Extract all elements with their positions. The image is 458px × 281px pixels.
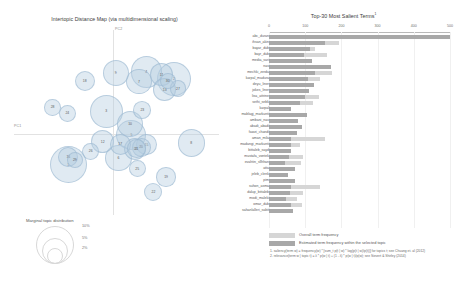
topic-bubble[interactable]: 26 [82, 143, 99, 160]
bar-estimated-frequency [269, 71, 315, 75]
term-label[interactable]: pim [263, 178, 269, 183]
bar-estimated-frequency [269, 161, 285, 165]
term-label[interactable]: deyu_liner [253, 82, 269, 87]
topic-bubble-number: 7 [127, 70, 150, 93]
term-label[interactable]: bayr_dub [254, 52, 269, 57]
topic-bubble-number: 28 [45, 100, 59, 114]
topic-bubble-number: 24 [60, 106, 75, 121]
legend-swatch-estimated [269, 241, 295, 246]
term-label[interactable]: abc_duran [252, 34, 269, 39]
topic-bubble[interactable]: 22 [144, 183, 162, 201]
legend-ring-label: 5% [82, 236, 88, 240]
legend-ring-label: 10% [82, 224, 90, 228]
topic-bubble[interactable]: 24 [59, 105, 76, 122]
bar-estimated-frequency [269, 119, 298, 123]
bar-estimated-frequency [269, 143, 291, 147]
intertopic-map-title: Intertopic Distance Map (via multidimens… [0, 16, 229, 22]
term-label[interactable]: atta [263, 166, 269, 171]
topic-bubble-number: 29 [68, 153, 82, 167]
legend-ring-label: 2% [82, 246, 88, 250]
x-axis-tick-label: 500 [447, 24, 453, 28]
bar-estimated-frequency [269, 101, 300, 105]
term-label[interactable]: sethi_sebk [252, 100, 269, 105]
intertopic-scatter-plot[interactable]: PC2 PC1 12345678910111213141516171819202… [14, 30, 219, 215]
topic-bubble-number: 25 [130, 161, 145, 176]
pyldavis-visualization: Intertopic Distance Map (via multidimens… [0, 0, 458, 281]
legend-label-overall: Overall term frequency [299, 232, 338, 237]
salient-terms-bar-chart[interactable]: 0100200300400500 abc_duranihsan_akinbaya… [229, 24, 458, 228]
topic-bubble[interactable]: 21 [127, 139, 146, 158]
topic-bubble[interactable]: 8 [178, 129, 206, 157]
bar-estimated-frequency [269, 167, 295, 171]
term-label[interactable]: suhon_asma [249, 184, 269, 189]
bar-estimated-frequency [269, 35, 450, 39]
term-label[interactable]: karpal [259, 106, 269, 111]
term-label[interactable]: media_sari [252, 58, 269, 63]
legend-title: Marginal topic distribution [26, 218, 73, 223]
topic-bubble-number: 19 [157, 168, 174, 185]
term-label[interactable]: mechki_zerda [247, 70, 269, 75]
legend-ring [36, 226, 74, 264]
bar-estimated-frequency [269, 125, 302, 129]
term-label[interactable]: modi_maleki [249, 196, 269, 201]
topic-bubble-number: 23 [134, 102, 150, 118]
term-label[interactable]: omar_dub [253, 202, 269, 207]
term-label[interactable]: bayar_dub [252, 46, 269, 51]
topic-bubble[interactable]: 7 [126, 69, 151, 94]
term-label[interactable]: dalup_bittaleb [247, 190, 269, 195]
marginal-topic-distribution-legend: Marginal topic distribution 2%5%10% [20, 218, 140, 276]
term-row[interactable]: sahanlalleri_sabit [229, 208, 458, 214]
term-label[interactable]: lisa_attrine [252, 94, 269, 99]
topic-bubble[interactable]: 18 [75, 71, 95, 91]
term-label[interactable]: evahtin_sllhhan [245, 160, 269, 165]
bar-estimated-frequency [269, 89, 309, 93]
topic-bubble[interactable]: 28 [44, 99, 60, 115]
x-axis-tick-label: 400 [411, 24, 417, 28]
bar-estimated-frequency [269, 179, 295, 183]
term-label[interactable]: mustafa_vontek [244, 154, 269, 159]
term-label[interactable]: jokes_liner [252, 88, 269, 93]
bar-estimated-frequency [269, 59, 312, 63]
term-label[interactable]: sahanlalleri_sabit [242, 208, 269, 213]
topic-bubble-number: 22 [145, 184, 161, 200]
bar-estimated-frequency [269, 113, 307, 117]
term-label[interactable]: ambani_nav [250, 118, 269, 123]
topic-bubble[interactable]: 30 [160, 73, 176, 89]
term-rows: abc_duranihsan_akinbayar_dubbayr_dubmedi… [229, 34, 458, 214]
term-label[interactable]: mablagj_markunti [241, 112, 269, 117]
term-label[interactable]: ihsan_akin [252, 40, 269, 45]
salient-terms-title: Top-30 Most Salient Terms1 [229, 12, 458, 19]
x-axis-line [269, 32, 450, 33]
term-label[interactable]: aman_mila [252, 136, 269, 141]
bar-estimated-frequency [269, 191, 290, 195]
term-label[interactable]: bittaleb_sayd [248, 148, 269, 153]
term-label[interactable]: abadi_abadi [250, 124, 269, 129]
legend-row-estimated: Estimated term frequency within the sele… [269, 240, 458, 247]
bar-estimated-frequency [269, 137, 291, 141]
term-label[interactable]: jeleb_clenk [251, 172, 269, 177]
term-label[interactable]: fawzi_chandi [249, 130, 269, 135]
topic-bubble-number: 30 [161, 74, 175, 88]
salient-terms-title-text: Top-30 Most Salient Terms [311, 13, 375, 19]
x-axis-tick-label: 300 [375, 24, 381, 28]
salient-terms-panel: Top-30 Most Salient Terms1 0100200300400… [229, 0, 458, 281]
topic-bubble[interactable]: 25 [129, 160, 146, 177]
intertopic-distance-map-panel: Intertopic Distance Map (via multidimens… [0, 0, 229, 281]
topic-bubble-number: 21 [128, 140, 145, 157]
topic-bubble[interactable]: 23 [133, 101, 151, 119]
x-axis-tick-label: 200 [338, 24, 344, 28]
bar-estimated-frequency [269, 65, 331, 69]
bar-chart-legend: Overall term frequency Estimated term fr… [269, 232, 458, 248]
term-label[interactable]: karpal_madura [246, 76, 269, 81]
term-label[interactable]: nas [263, 64, 269, 69]
legend-label-estimated: Estimated term frequency within the sele… [299, 240, 386, 245]
term-label[interactable]: madangi_markunti [240, 142, 269, 147]
x-axis-tick-label: 100 [302, 24, 308, 28]
bar-estimated-frequency [269, 173, 288, 177]
topic-bubble[interactable]: 9 [103, 60, 129, 86]
x-axis-tick-label: 0 [268, 24, 270, 28]
bar-estimated-frequency [269, 197, 286, 201]
bar-estimated-frequency [269, 131, 297, 135]
legend-swatch-overall [269, 233, 295, 238]
topic-bubble[interactable]: 29 [67, 152, 83, 168]
